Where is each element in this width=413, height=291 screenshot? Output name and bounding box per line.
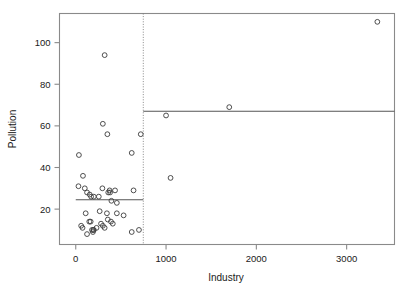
x-tick-label: 0 xyxy=(73,253,78,264)
y-tick-label: 20 xyxy=(40,204,51,215)
y-tick-label: 40 xyxy=(40,162,51,173)
y-tick-label: 60 xyxy=(40,120,51,131)
y-axis-title: Pollution xyxy=(7,110,18,148)
plot-canvas: 0100020003000 20406080100 Industry Pollu… xyxy=(0,0,413,291)
x-tick-label: 3000 xyxy=(336,253,357,264)
x-tick-label: 1000 xyxy=(155,253,176,264)
x-tick-label: 2000 xyxy=(246,253,267,264)
x-axis-title: Industry xyxy=(208,272,244,283)
y-tick-label: 100 xyxy=(35,37,51,48)
plot-background xyxy=(0,0,413,291)
y-tick-label: 80 xyxy=(40,79,51,90)
scatter-plot-figure: 0100020003000 20406080100 Industry Pollu… xyxy=(0,0,413,291)
